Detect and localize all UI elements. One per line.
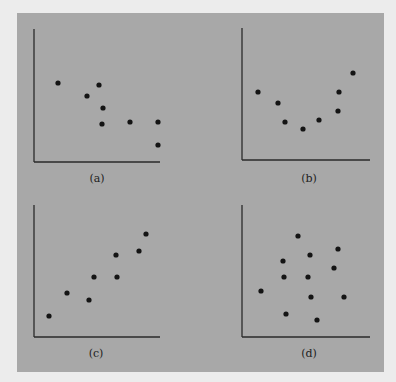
data-point xyxy=(305,274,310,279)
data-point xyxy=(281,274,286,279)
scatter-plots xyxy=(0,0,396,382)
data-point xyxy=(255,89,260,94)
data-point xyxy=(308,294,313,299)
caption-c: (c) xyxy=(76,347,116,360)
data-point xyxy=(258,288,263,293)
data-point xyxy=(275,100,280,105)
data-point xyxy=(84,93,89,98)
data-point xyxy=(127,119,132,124)
data-point xyxy=(335,246,340,251)
data-point xyxy=(55,80,60,85)
caption-a: (a) xyxy=(77,172,117,185)
data-point xyxy=(113,252,118,257)
data-point xyxy=(335,108,340,113)
data-point xyxy=(280,258,285,263)
plot-b-axes xyxy=(242,28,370,160)
data-point xyxy=(331,265,336,270)
data-point xyxy=(155,119,160,124)
plot-c-axes xyxy=(34,205,160,337)
data-point xyxy=(91,274,96,279)
data-point xyxy=(282,119,287,124)
data-point xyxy=(314,317,319,322)
data-point xyxy=(114,274,119,279)
data-point xyxy=(300,126,305,131)
caption-b: (b) xyxy=(289,172,329,185)
data-point xyxy=(316,117,321,122)
data-point xyxy=(143,231,148,236)
data-point xyxy=(155,142,160,147)
plot-a-axes xyxy=(34,29,160,162)
data-point xyxy=(295,233,300,238)
data-point xyxy=(99,121,104,126)
data-point xyxy=(350,70,355,75)
data-point xyxy=(307,252,312,257)
data-point xyxy=(46,313,51,318)
plot-d-axes xyxy=(242,205,370,337)
data-points xyxy=(46,70,355,322)
data-point xyxy=(96,82,101,87)
data-point xyxy=(64,290,69,295)
caption-d: (d) xyxy=(289,347,329,360)
data-point xyxy=(136,248,141,253)
data-point xyxy=(100,105,105,110)
data-point xyxy=(283,311,288,316)
data-point xyxy=(341,294,346,299)
data-point xyxy=(336,89,341,94)
data-point xyxy=(86,297,91,302)
